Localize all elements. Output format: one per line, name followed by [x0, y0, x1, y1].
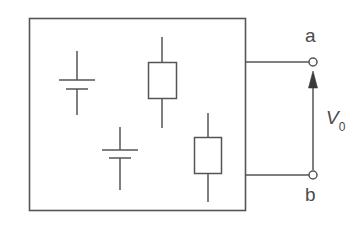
- terminal-a-node: [309, 58, 317, 66]
- voltage-label: V0: [326, 108, 345, 131]
- resistor-symbol-1: [149, 37, 177, 128]
- black-box-network-outline: [30, 19, 246, 211]
- terminal-b-label: b: [305, 185, 316, 204]
- battery-symbol-2: [102, 127, 138, 190]
- resistor-symbol-2: [195, 113, 222, 202]
- voltage-label-symbol: V: [326, 107, 339, 128]
- voltage-arrow-head: [309, 71, 318, 88]
- resistor-2-body: [195, 138, 222, 174]
- resistor-1-body: [149, 63, 177, 99]
- terminal-a-label: a: [305, 26, 316, 45]
- voltage-label-subscript: 0: [339, 120, 346, 134]
- battery-symbol-1: [59, 51, 95, 115]
- voltage-arrow: [309, 71, 318, 170]
- circuit-figure: a b V0: [0, 0, 359, 237]
- terminal-b-node: [309, 171, 317, 179]
